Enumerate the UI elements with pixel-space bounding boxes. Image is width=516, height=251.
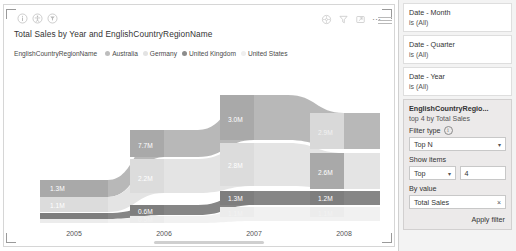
filter-card-value: is (All) xyxy=(409,83,506,90)
show-items-count-value: 4 xyxy=(465,169,469,178)
visual-header-left-icons xyxy=(17,13,58,24)
filter-card-value: top 4 by Total Sales xyxy=(409,115,506,122)
filter-type-value: Top N xyxy=(414,140,433,149)
by-value-field-name: Total Sales xyxy=(414,198,449,207)
filter-card-title: EnglishCountryRegio... xyxy=(409,104,506,113)
block-2005-us xyxy=(40,219,108,223)
label-2006-australia: 7.7M xyxy=(138,142,153,149)
label-2008-uk: 1.2M xyxy=(318,195,333,202)
label-2006-uk: 0.6M xyxy=(138,208,153,215)
filter-card-date-year[interactable]: Date - Year is (All) xyxy=(403,67,512,96)
legend-swatch-germany xyxy=(143,51,148,56)
block-2005-uk xyxy=(40,213,108,219)
by-value-field[interactable]: Total Sales × xyxy=(409,195,506,209)
label-2005-australia: 1.3M xyxy=(50,185,65,192)
show-items-label: Show items xyxy=(409,155,506,164)
filter-card-value: is (All) xyxy=(409,51,506,58)
label-2008-us: 1.1M xyxy=(318,210,333,217)
filter-card-date-quarter[interactable]: Date - Quarter is (All) xyxy=(403,35,512,64)
focus-mode-icon[interactable] xyxy=(321,14,332,25)
visual-menu-icon[interactable] xyxy=(378,15,392,26)
show-items-direction-value: Top xyxy=(414,169,426,178)
label-2007-australia: 3.0M xyxy=(228,116,243,123)
visual-header-actions: ⋯ xyxy=(321,14,382,25)
accessibility-icon[interactable] xyxy=(32,13,43,24)
by-value-label-text: By value xyxy=(409,184,437,193)
x-tick-2005: 2005 xyxy=(66,230,82,237)
filter-card-title: Date - Quarter xyxy=(409,40,506,49)
ribbon-plot-area[interactable]: 1.3M 1.1M 7.7M 2.2M 0.6M 0.5M 3.0M 2.8M … xyxy=(12,65,386,223)
label-2008-australia: 2.9M xyxy=(318,129,333,136)
legend-swatch-united-kingdom xyxy=(182,51,187,56)
clear-icon[interactable]: × xyxy=(497,199,501,206)
x-tick-2007: 2007 xyxy=(246,230,262,237)
legend-label-germany: Germany xyxy=(150,50,177,57)
label-2006-germany: 2.2M xyxy=(138,175,153,182)
filter-type-label-text: Filter type xyxy=(409,126,441,135)
legend-item-united-kingdom[interactable]: United Kingdom xyxy=(182,50,236,57)
apply-filter-button[interactable]: Apply filter xyxy=(409,215,506,224)
legend-label-united-kingdom: United Kingdom xyxy=(189,50,236,57)
horizontal-scrollbar[interactable] xyxy=(154,241,264,244)
label-2007-germany: 2.8M xyxy=(228,162,243,169)
info-icon[interactable] xyxy=(17,13,28,24)
filter-funnel-icon[interactable] xyxy=(338,14,349,25)
info-icon[interactable]: i xyxy=(444,126,453,135)
legend-swatch-united-states xyxy=(241,51,246,56)
label-2007-us: 1.1M xyxy=(228,210,243,217)
chevron-down-icon: ▾ xyxy=(498,141,501,148)
ribbon-chart-visual[interactable]: ⋯ Total Sales by Year and EnglishCountry… xyxy=(3,4,395,247)
show-items-row: Top ▾ 4 xyxy=(409,166,506,180)
chevron-down-icon: ▾ xyxy=(448,170,451,177)
filter-type-label: Filter type i xyxy=(409,126,506,135)
legend-label-united-states: United States xyxy=(248,50,288,57)
power-bi-report-page: ⋯ Total Sales by Year and EnglishCountry… xyxy=(0,0,516,251)
legend-label-australia: Australia xyxy=(112,50,138,57)
label-2008-germany: 2.6M xyxy=(318,169,333,176)
legend-swatch-australia xyxy=(105,51,110,56)
label-2006-us: 0.5M xyxy=(138,216,153,223)
filter-type-select[interactable]: Top N ▾ xyxy=(409,137,506,151)
x-tick-2006: 2006 xyxy=(156,230,172,237)
filter-applied-icon[interactable] xyxy=(47,13,58,24)
visual-corner-top-left xyxy=(6,9,16,19)
label-2005-germany: 1.1M xyxy=(50,202,65,209)
legend-item-germany[interactable]: Germany xyxy=(143,50,177,57)
label-2007-uk: 1.3M xyxy=(228,195,243,202)
chart-legend: EnglishCountryRegionName Australia Germa… xyxy=(14,50,288,57)
legend-title: EnglishCountryRegionName xyxy=(14,50,97,57)
expand-icon[interactable] xyxy=(355,14,366,25)
filter-card-english-country-region[interactable]: EnglishCountryRegio... top 4 by Total Sa… xyxy=(403,99,512,230)
filter-card-title: Date - Month xyxy=(409,8,506,17)
show-items-count-input[interactable]: 4 xyxy=(460,166,507,180)
filters-pane: Date - Month is (All) Date - Quarter is … xyxy=(398,0,516,251)
show-items-direction-select[interactable]: Top ▾ xyxy=(409,166,456,180)
filter-card-title: Date - Year xyxy=(409,72,506,81)
legend-item-united-states[interactable]: United States xyxy=(241,50,288,57)
x-tick-2008: 2008 xyxy=(336,230,352,237)
page-title: Total Sales by Year and EnglishCountryRe… xyxy=(14,29,213,39)
legend-item-australia[interactable]: Australia xyxy=(105,50,138,57)
show-items-label-text: Show items xyxy=(409,155,446,164)
by-value-label: By value xyxy=(409,184,506,193)
filter-card-date-month[interactable]: Date - Month is (All) xyxy=(403,3,512,32)
filter-card-value: is (All) xyxy=(409,19,506,26)
